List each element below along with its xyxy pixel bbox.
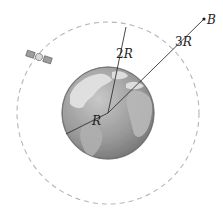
point-b-distance-label: 3R	[175, 35, 192, 49]
point-b-distance-line	[108, 20, 203, 113]
point-b-label: B	[206, 13, 216, 27]
satellite-icon	[26, 50, 53, 65]
orbit-diagram: R 2R 3R B	[0, 0, 223, 209]
point-b-marker	[202, 17, 205, 20]
earth-radius-label: R	[91, 114, 101, 128]
orbit-radius-label: 2R	[116, 47, 133, 61]
